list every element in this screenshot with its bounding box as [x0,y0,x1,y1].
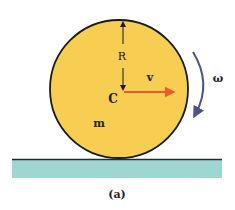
figure-caption: (a) [108,188,126,201]
disk [50,20,188,158]
radius-label: R [118,50,127,63]
angular-velocity-label: ω [213,72,224,85]
ground-surface [12,160,222,179]
rolling-disk-diagram: R v C m ω (a) [0,0,235,210]
angular-velocity-arc-icon [193,52,203,113]
mass-label: m [93,117,105,130]
center-label: C [108,92,118,106]
velocity-label: v [146,71,154,84]
